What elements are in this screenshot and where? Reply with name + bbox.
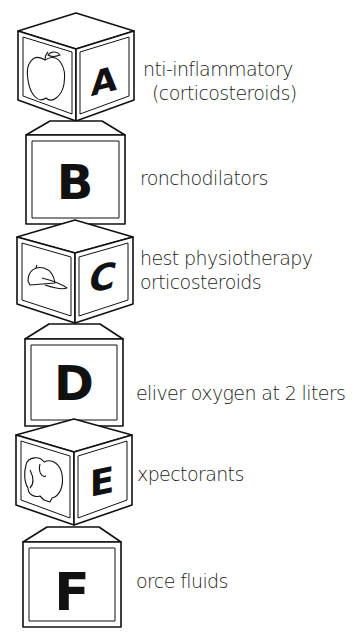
block-d: D — [25, 324, 123, 426]
letter-b: B — [57, 154, 94, 210]
block-a: A — [18, 13, 134, 121]
block-e-line-1: xpectorants — [137, 462, 244, 486]
block-c-label: hest physiotherapy orticosteroids — [140, 246, 312, 294]
block-b-line-1: ronchodilators — [140, 166, 268, 190]
block-c-line-2: orticosteroids — [140, 270, 312, 294]
block-f-line-1: orce fluids — [136, 569, 228, 593]
block-c-line-1: hest physiotherapy — [140, 246, 312, 270]
block-e-label: xpectorants — [137, 462, 244, 486]
letter-a: A — [91, 58, 118, 104]
block-f: F — [23, 527, 121, 627]
letter-e: E — [90, 458, 115, 506]
block-d-line-1: eliver oxygen at 2 liters — [136, 381, 345, 405]
block-f-label: orce fluids — [136, 569, 228, 593]
letter-f: F — [54, 562, 90, 622]
letter-d: D — [54, 355, 94, 411]
letter-c: C — [90, 254, 117, 301]
block-e: E — [16, 419, 132, 525]
block-b: B — [26, 121, 125, 224]
block-a-label: nti-inflammatory (corticosteroids) — [143, 57, 297, 105]
block-d-label: eliver oxygen at 2 liters — [136, 381, 345, 405]
block-a-line-1: nti-inflammatory — [143, 57, 297, 81]
block-c: C — [17, 220, 133, 323]
block-a-line-2: (corticosteroids) — [143, 81, 297, 105]
block-b-label: ronchodilators — [140, 166, 268, 190]
